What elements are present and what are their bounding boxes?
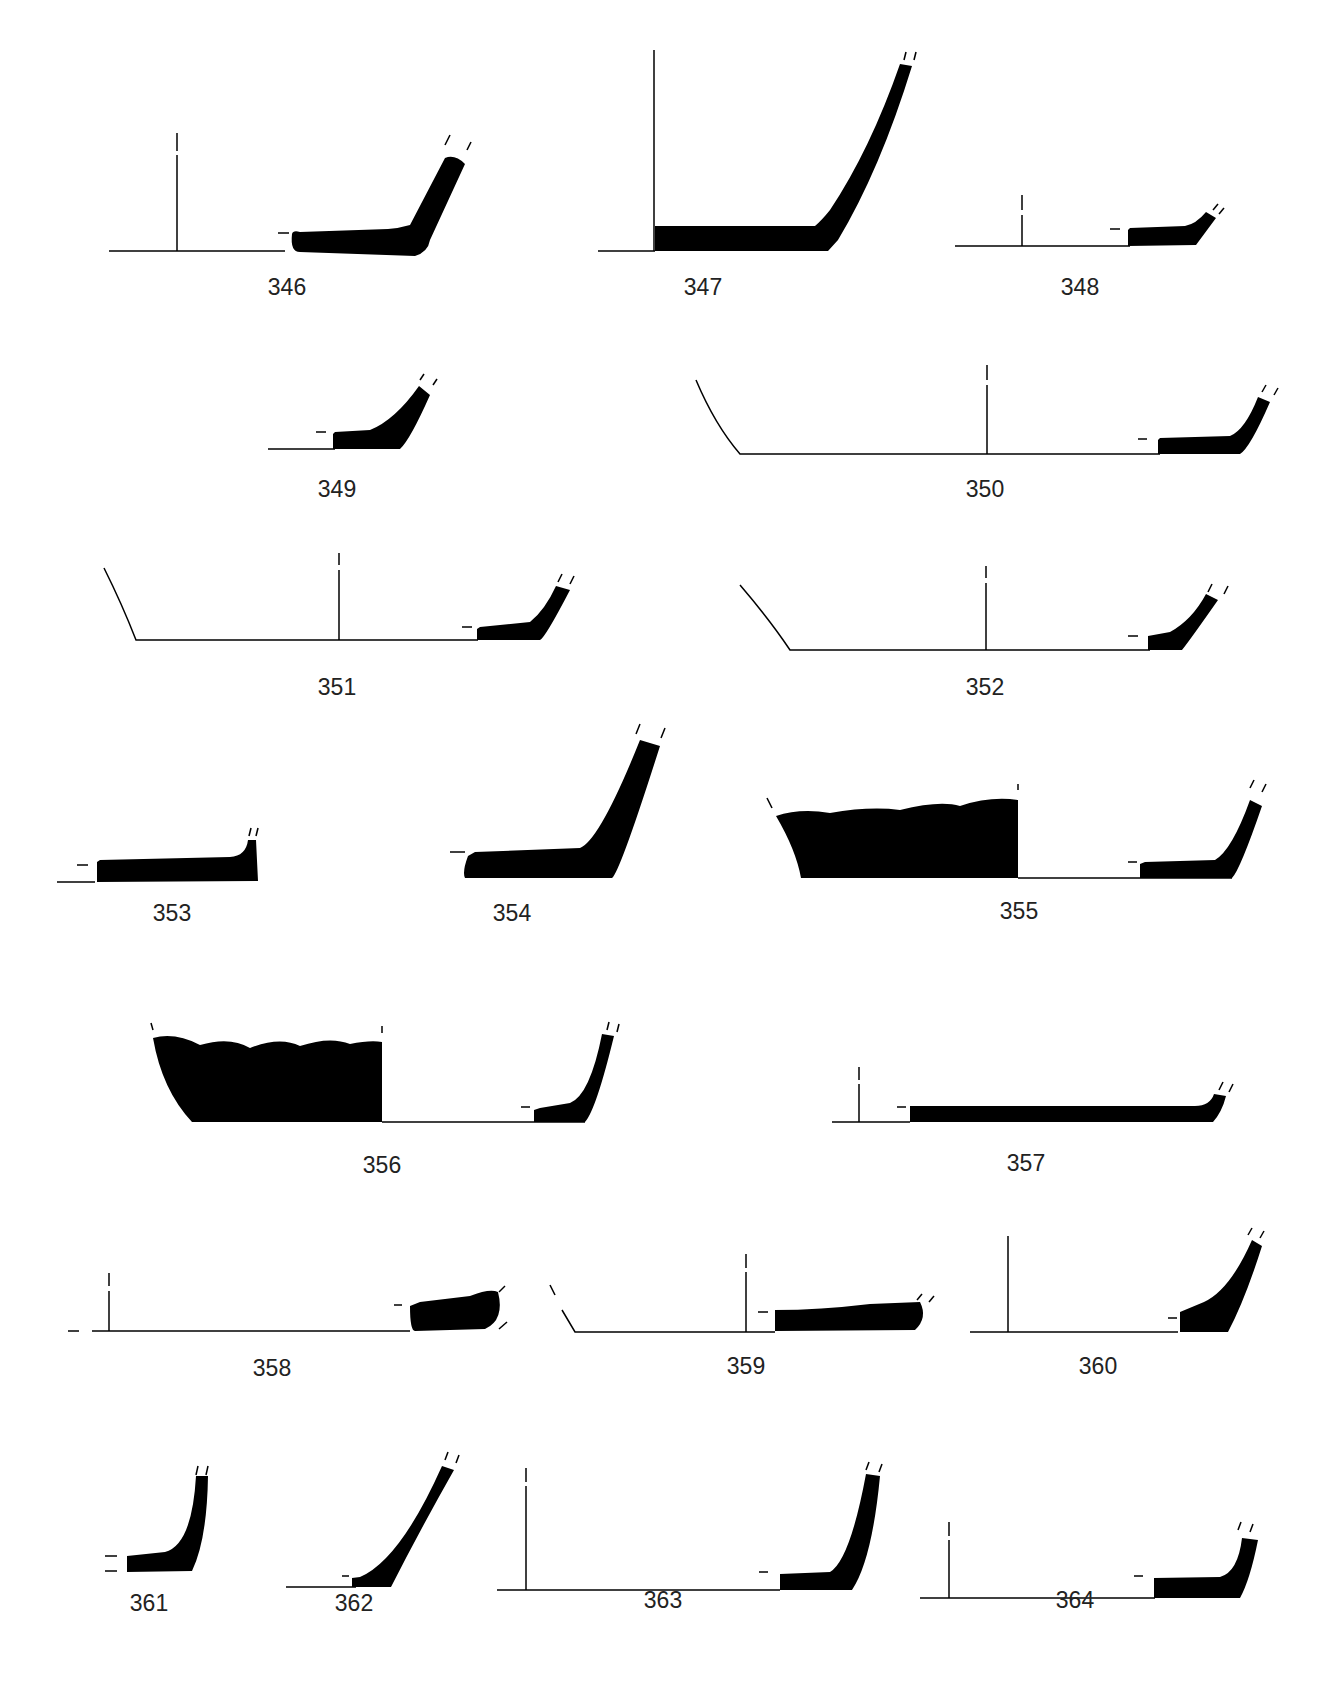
figure-label-346: 346 (268, 274, 306, 301)
profile-362 (286, 1452, 459, 1587)
profile-350 (696, 365, 1278, 454)
figure-label-362: 362 (335, 1590, 373, 1617)
figure-label-353: 353 (153, 900, 191, 927)
figure-label-349: 349 (318, 476, 356, 503)
figure-label-347: 347 (684, 274, 722, 301)
figure-label-348: 348 (1061, 274, 1099, 301)
figure-label-360: 360 (1079, 1353, 1117, 1380)
figure-label-354: 354 (493, 900, 531, 927)
profile-356 (151, 1022, 619, 1122)
profile-347 (598, 50, 916, 251)
profile-drawings (0, 0, 1327, 1703)
profile-355 (767, 780, 1266, 878)
profile-352 (740, 566, 1228, 650)
profile-360 (970, 1228, 1264, 1332)
profile-348 (955, 195, 1224, 246)
figure-label-355: 355 (1000, 898, 1038, 925)
figure-label-361: 361 (130, 1590, 168, 1617)
profile-349 (268, 374, 437, 449)
profile-346 (109, 133, 471, 256)
figure-label-358: 358 (253, 1355, 291, 1382)
figure-label-364: 364 (1056, 1587, 1094, 1614)
profile-357 (832, 1067, 1233, 1122)
profile-354 (450, 724, 665, 878)
figure-label-356: 356 (363, 1152, 401, 1179)
profile-353 (57, 828, 258, 882)
figure-label-352: 352 (966, 674, 1004, 701)
figure-label-351: 351 (318, 674, 356, 701)
figure-label-357: 357 (1007, 1150, 1045, 1177)
figure-label-359: 359 (727, 1353, 765, 1380)
figure-label-350: 350 (966, 476, 1004, 503)
profile-361 (105, 1466, 208, 1572)
profile-351 (104, 553, 574, 640)
profile-359 (550, 1254, 934, 1332)
figure-label-363: 363 (644, 1587, 682, 1614)
profile-358 (68, 1273, 507, 1331)
profile-363 (497, 1462, 882, 1590)
